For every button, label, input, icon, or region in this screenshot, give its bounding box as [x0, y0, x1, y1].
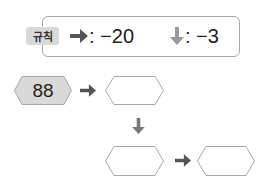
- right-rule-value: : −20: [89, 24, 134, 48]
- answer-1: [105, 76, 164, 105]
- answer-hexagon-3[interactable]: [197, 146, 255, 176]
- rule-badge: 규칙: [26, 27, 59, 45]
- answer-hexagon-1[interactable]: [105, 76, 164, 105]
- answer-3: [197, 146, 255, 176]
- answer-2: [105, 146, 164, 176]
- start-value: 88: [14, 76, 72, 105]
- start-hexagon: 88: [14, 76, 72, 105]
- answer-hexagon-2[interactable]: [105, 146, 164, 176]
- down-arrow-icon: [170, 27, 184, 45]
- right-arrow-icon: [70, 29, 88, 43]
- down-rule-value: : −3: [185, 24, 219, 48]
- right-arrow-icon: [80, 84, 96, 97]
- right-arrow-icon: [175, 154, 191, 167]
- down-arrow-icon: [132, 118, 145, 134]
